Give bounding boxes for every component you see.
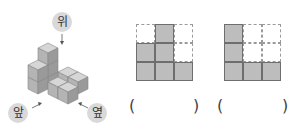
grid-cell <box>136 24 155 43</box>
answer-2-blank[interactable] <box>228 98 278 116</box>
grid-cell <box>243 43 262 62</box>
grid-cell <box>243 62 262 81</box>
grid-cell <box>224 43 243 62</box>
cube-structure: 위 앞 옆 <box>0 0 110 130</box>
grid-cell <box>136 43 155 62</box>
view-2-grid <box>224 24 281 81</box>
grid-cell <box>243 24 262 43</box>
grid-cell <box>262 24 281 43</box>
side-view-label: 옆 <box>87 103 107 123</box>
grid-cell <box>174 62 193 81</box>
grid-cell <box>155 62 174 81</box>
grid-cell <box>262 62 281 81</box>
top-view-label: 위 <box>52 12 72 32</box>
grid-cell <box>224 24 243 43</box>
grid-cell <box>155 24 174 43</box>
grid-cell <box>136 62 155 81</box>
grid-cell <box>174 24 193 43</box>
grid-cell <box>262 43 281 62</box>
view-1-grid <box>136 24 193 81</box>
answer-1-blank[interactable] <box>140 98 190 116</box>
answer-1-open-paren: ( <box>129 96 135 115</box>
answer-2-close-paren: ) <box>282 96 288 115</box>
grid-cell <box>155 43 174 62</box>
answer-1-close-paren: ) <box>193 96 199 115</box>
grid-cell <box>224 62 243 81</box>
answer-2-open-paren: ( <box>217 96 223 115</box>
grid-cell <box>174 43 193 62</box>
front-view-label: 앞 <box>8 103 28 123</box>
